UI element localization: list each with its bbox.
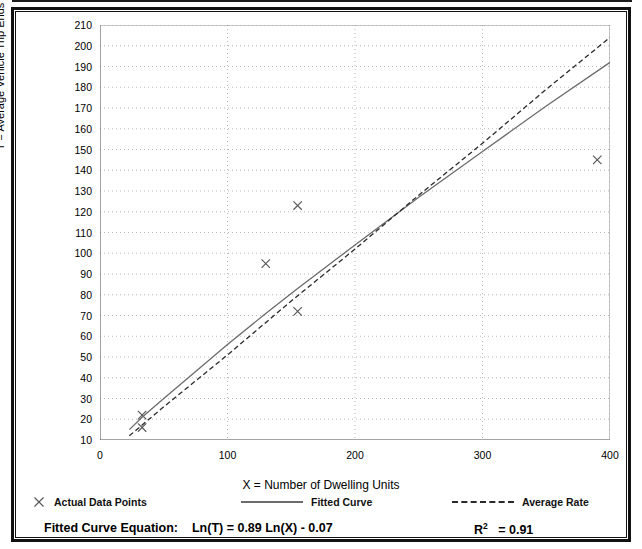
plot-area [100, 25, 610, 440]
x-tick-label: 400 [588, 450, 632, 460]
legend-label-actual-data-points: Actual Data Points [54, 496, 147, 508]
y-tick-label: 90 [58, 269, 92, 279]
y-tick-label: 60 [58, 331, 92, 341]
r-value: = 0.91 [498, 523, 533, 537]
y-tick-label: 120 [58, 207, 92, 217]
chart-legend: Actual Data Points Fitted Curve Average … [32, 492, 622, 514]
y-tick-label: 100 [58, 248, 92, 258]
x-tick-label: 100 [206, 450, 250, 460]
y-tick-label: 150 [58, 145, 92, 155]
y-tick-label: 30 [58, 394, 92, 404]
y-tick-label: 180 [58, 82, 92, 92]
y-tick-label: 20 [58, 414, 92, 424]
y-tick-label: 50 [58, 352, 92, 362]
legend-item-actual-data-points: Actual Data Points [32, 492, 147, 512]
x-tick-label: 300 [461, 450, 505, 460]
legend-label-average-rate: Average Rate [522, 496, 589, 508]
y-axis-title: T = Average Vehicle Trip Ends [0, 0, 6, 150]
x-tick-label: 0 [78, 450, 122, 460]
y-tick-label: 190 [58, 62, 92, 72]
legend-item-average-rate: Average Rate [452, 492, 589, 512]
solid-line-icon [241, 501, 303, 503]
y-tick-label: 80 [58, 290, 92, 300]
chart-footer: Fitted Curve Equation: Ln(T) = 0.89 Ln(X… [0, 519, 642, 547]
trip-generation-figure: T = Average Vehicle Trip Ends 1020304050… [0, 0, 642, 549]
legend-label-fitted-curve: Fitted Curve [311, 496, 372, 508]
x-axis-title: X = Number of Dwelling Units [0, 478, 642, 492]
y-tick-label: 140 [58, 165, 92, 175]
y-tick-label: 10 [58, 435, 92, 445]
top-clipped-rule [12, 0, 632, 2]
gridlines [100, 25, 610, 440]
y-tick-label: 200 [58, 41, 92, 51]
y-tick-label: 110 [58, 228, 92, 238]
y-tick-label: 210 [58, 20, 92, 30]
dashed-line-icon [452, 501, 514, 503]
fitted-curve-equation: Fitted Curve Equation: Ln(T) = 0.89 Ln(X… [44, 521, 333, 535]
y-tick-label: 160 [58, 124, 92, 134]
y-tick-label: 130 [58, 186, 92, 196]
y-tick-label: 40 [58, 373, 92, 383]
equation-expression: Ln(T) = 0.89 Ln(X) - 0.07 [192, 521, 333, 535]
plot-canvas [100, 25, 610, 440]
data-series [129, 37, 610, 435]
x-tick-label: 200 [333, 450, 377, 460]
r-exponent: 2 [483, 521, 488, 531]
legend-item-fitted-curve: Fitted Curve [241, 492, 372, 512]
y-tick-label: 170 [58, 103, 92, 113]
equation-label: Fitted Curve Equation: [44, 521, 178, 535]
x-marker-icon [32, 495, 46, 509]
y-tick-label: 70 [58, 311, 92, 321]
r-squared-value: R2 = 0.91 [474, 521, 533, 537]
r-symbol: R [474, 523, 483, 537]
